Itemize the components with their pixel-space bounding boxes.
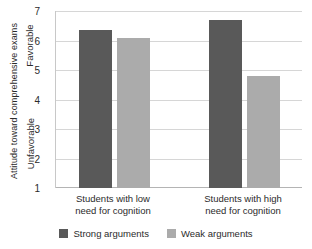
y-axis-tick-label-1: 1 — [20, 183, 40, 194]
x-axis-category-label-0: Students with low need for cognition — [51, 193, 175, 216]
bar-1-1 — [247, 76, 280, 188]
legend-swatch-icon — [59, 229, 68, 238]
y-axis-title: Attitude toward comprehensive exams — [9, 3, 19, 199]
x-axis-category-label-1: Students with high need for cognition — [181, 193, 305, 216]
y-axis-tick-label-3: 3 — [20, 124, 40, 135]
y-axis-tick-label-6: 6 — [20, 35, 40, 46]
plot-area: 1234567 — [55, 11, 302, 188]
y-axis-tick-label-4: 4 — [20, 94, 40, 105]
bar-0-0 — [79, 30, 112, 188]
bar-0-1 — [117, 38, 150, 188]
legend-item-strong-arguments: Strong arguments — [59, 228, 149, 239]
legend-label: Strong arguments — [73, 228, 149, 239]
y-axis-tick-label-2: 2 — [20, 153, 40, 164]
bar-chart: Attitude toward comprehensive exams Favo… — [0, 0, 312, 249]
legend-item-weak-arguments: Weak arguments — [167, 228, 253, 239]
gridline-7 — [56, 11, 302, 12]
y-axis-anchor-unfavorable: Unfavorable — [25, 102, 36, 186]
legend-swatch-icon — [167, 229, 176, 238]
y-axis-tick-label-5: 5 — [20, 65, 40, 76]
category-label-line: Students with high — [181, 193, 305, 205]
category-label-line: Students with low — [51, 193, 175, 205]
category-label-line: need for cognition — [181, 205, 305, 217]
legend-label: Weak arguments — [181, 228, 253, 239]
legend: Strong arguments Weak arguments — [0, 228, 312, 239]
y-axis-tick-label-7: 7 — [20, 6, 40, 17]
bar-1-0 — [209, 20, 242, 188]
category-label-line: need for cognition — [51, 205, 175, 217]
